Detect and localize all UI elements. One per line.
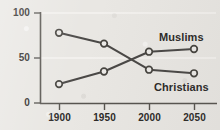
x-tick-label-1950: 1950 <box>82 112 127 123</box>
y-tick-label-0: 0 <box>2 97 30 108</box>
series-label-christians: Christians <box>154 81 209 93</box>
y-axis <box>34 12 41 104</box>
x-tick-label-2000: 2000 <box>127 112 172 123</box>
x-tick-label-2050: 2050 <box>172 112 217 123</box>
x-tick-label-1900: 1900 <box>37 112 82 123</box>
chart-plot-area <box>0 0 220 130</box>
y-tick-label-50: 50 <box>2 52 30 63</box>
y-tick-label-100: 100 <box>2 7 30 18</box>
series-label-muslims: Muslims <box>159 31 204 43</box>
x-axis <box>40 104 217 111</box>
line-chart: 100 50 0 1900 1950 2000 2050 Muslims Chr… <box>0 0 220 130</box>
